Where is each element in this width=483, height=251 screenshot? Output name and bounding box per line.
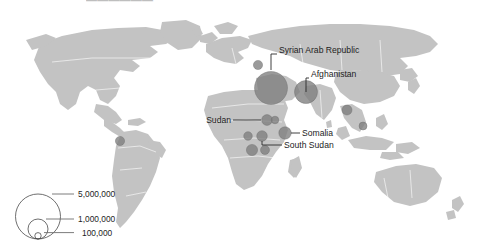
bubble-turkey-region[interactable] bbox=[253, 60, 262, 69]
label-syrian-arab-republic: Syrian Arab Republic bbox=[279, 45, 360, 55]
bubble-south-sudan[interactable] bbox=[257, 131, 268, 142]
bubble-somalia[interactable] bbox=[279, 127, 291, 139]
label-sudan: Sudan bbox=[206, 115, 231, 125]
bubble-eritrea-region[interactable] bbox=[271, 116, 279, 124]
legend-circle-100000 bbox=[35, 233, 41, 239]
bubble-drc-region[interactable] bbox=[246, 144, 257, 155]
world-map: Syrian Arab Republic Afghanistan Sudan S… bbox=[0, 0, 483, 251]
legend-label-5000000: 5,000,000 bbox=[78, 189, 116, 199]
legend-label-1000000: 1,000,000 bbox=[78, 214, 116, 224]
bubble-myanmar-region[interactable] bbox=[342, 105, 352, 115]
label-south-sudan: South Sudan bbox=[284, 140, 334, 150]
bubble-syrian-arab-republic[interactable] bbox=[255, 72, 288, 105]
legend-circle-1000000 bbox=[28, 219, 48, 239]
bubble-burundi-region[interactable] bbox=[261, 146, 270, 155]
bubble-sudan[interactable] bbox=[262, 115, 273, 126]
figure-canvas: —————— bbox=[0, 0, 483, 251]
label-afghanistan: Afghanistan bbox=[311, 69, 357, 79]
bubble-viet-nam-region[interactable] bbox=[359, 122, 367, 130]
label-somalia: Somalia bbox=[302, 128, 333, 138]
bubble-size-legend: 5,000,000 1,000,000 100,000 bbox=[16, 189, 116, 239]
legend-label-100000: 100,000 bbox=[82, 228, 113, 238]
bubble-colombia-region[interactable] bbox=[115, 136, 124, 145]
leader-syrian-arab-republic bbox=[271, 54, 277, 70]
bubble-car-region[interactable] bbox=[244, 132, 253, 141]
